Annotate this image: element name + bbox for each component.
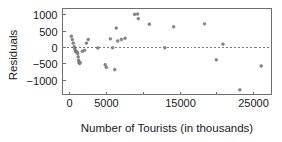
residual-plot-figure: −1000−50005001000 050001500025000 Residu…	[0, 0, 282, 142]
data-point	[105, 66, 108, 69]
y-tick-label: 500	[39, 26, 57, 38]
data-point	[111, 46, 114, 49]
data-point	[72, 42, 75, 45]
data-point	[71, 38, 74, 41]
data-point	[221, 43, 224, 46]
data-point	[148, 23, 151, 26]
data-point	[238, 88, 241, 91]
data-point	[79, 61, 82, 64]
x-tick-label: 15000	[165, 97, 196, 109]
y-tick-label: 0	[51, 42, 57, 54]
scatter-plot-canvas: −1000−50005001000 050001500025000 Residu…	[0, 0, 282, 142]
data-point	[115, 27, 118, 30]
x-tick-label: 5000	[94, 97, 118, 109]
data-point	[116, 40, 119, 43]
data-point	[87, 38, 90, 41]
data-point	[136, 13, 139, 16]
y-tick-label: −500	[33, 58, 58, 70]
data-point	[76, 52, 79, 55]
data-point	[260, 65, 263, 68]
data-point	[96, 47, 99, 50]
y-tick-label: −1000	[27, 75, 58, 87]
x-tick-label: 0	[66, 97, 72, 109]
figure-background	[0, 0, 282, 142]
x-axis-tick-labels: 050001500025000	[66, 97, 268, 109]
data-point	[203, 22, 206, 25]
data-point	[113, 68, 116, 71]
x-tick-label: 25000	[238, 97, 269, 109]
x-axis-title: Number of Tourists (in thousands)	[81, 122, 254, 134]
data-point	[172, 25, 175, 28]
data-point	[137, 17, 140, 20]
data-point	[133, 13, 136, 16]
data-point	[215, 58, 218, 61]
data-point	[70, 35, 73, 38]
data-point	[124, 37, 127, 40]
data-point	[83, 49, 86, 52]
data-point	[109, 37, 112, 40]
data-point	[85, 42, 88, 45]
y-axis-title: Residuals	[7, 30, 19, 81]
data-point	[120, 38, 123, 41]
data-point	[163, 46, 166, 49]
y-tick-label: 1000	[33, 9, 57, 21]
data-point	[77, 55, 80, 58]
